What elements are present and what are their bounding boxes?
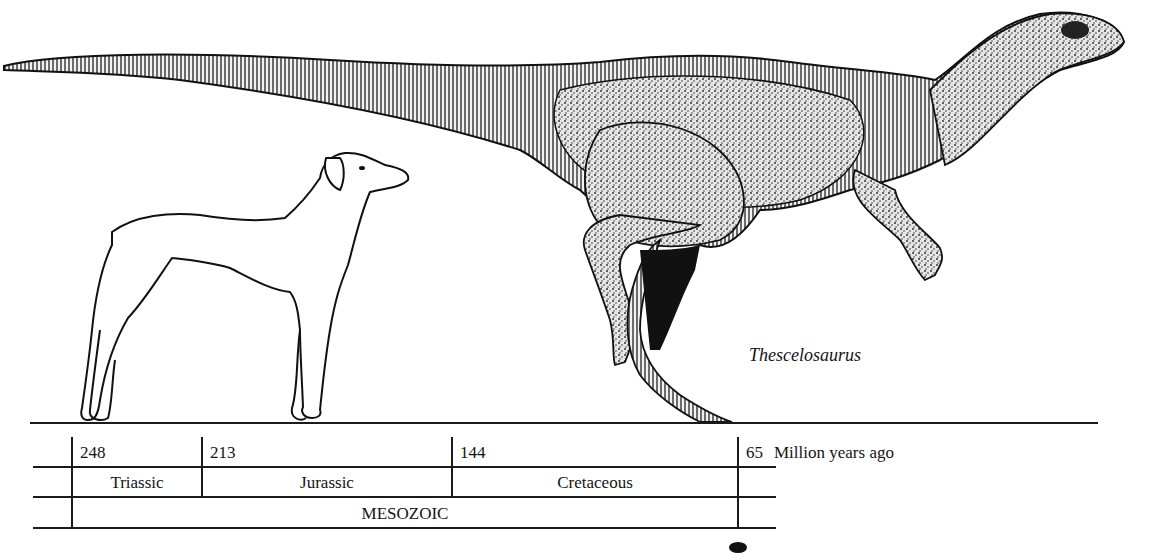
existence-marker-icon	[729, 542, 747, 553]
period-jurassic: Jurassic	[203, 474, 451, 491]
ground-line	[30, 422, 1098, 424]
tick-label: 248	[80, 444, 106, 461]
tick-label: 144	[460, 444, 486, 461]
era-mesozoic: MESOZOIC	[73, 505, 737, 522]
period-triassic: Triassic	[73, 474, 201, 491]
timeline-row-divider	[33, 496, 776, 498]
unit-label: Million years ago	[774, 444, 894, 461]
figure: Thescelosaurus 248 213 144 65 Million ye…	[0, 0, 1149, 560]
dog-illustration	[81, 153, 408, 420]
tick-65	[737, 437, 739, 529]
species-label: Thescelosaurus	[749, 346, 861, 364]
timeline-row-divider	[33, 466, 776, 468]
period-cretaceous: Cretaceous	[453, 474, 737, 491]
tick-label: 65	[746, 444, 763, 461]
timeline-row-divider	[33, 527, 776, 529]
tick-label: 213	[210, 444, 236, 461]
